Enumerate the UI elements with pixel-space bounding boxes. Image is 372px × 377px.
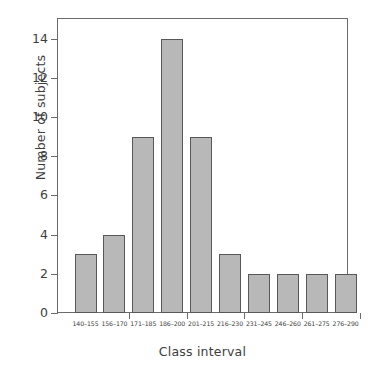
y-axis-tick-label: 8	[8, 148, 48, 163]
bar	[161, 39, 183, 313]
y-axis-tick	[51, 78, 58, 79]
y-axis-tick-label: 6	[8, 187, 48, 202]
bar	[306, 274, 328, 313]
histogram-figure: Number of subjects 02468101214 140–15515…	[0, 0, 372, 377]
y-axis-tick	[51, 39, 58, 40]
y-axis-tick-label: 2	[8, 266, 48, 281]
bar	[132, 137, 154, 313]
y-axis-tick-label: 10	[8, 109, 48, 124]
y-axis-tick	[51, 235, 58, 236]
bar	[248, 274, 270, 313]
bar	[103, 235, 125, 313]
y-axis-tick-label: 12	[8, 70, 48, 85]
x-axis-tick	[129, 313, 130, 319]
bar	[75, 254, 97, 313]
y-axis-tick-label: 0	[8, 305, 48, 320]
x-axis-tick	[360, 313, 361, 319]
y-axis-tick	[51, 274, 58, 275]
x-axis-tick-label: 276–290	[323, 320, 369, 327]
bar	[335, 274, 357, 313]
bar	[190, 137, 212, 313]
x-axis-tick	[302, 313, 303, 319]
bar	[219, 254, 241, 313]
y-axis-tick	[51, 195, 58, 196]
x-axis-title: Class interval	[57, 344, 348, 359]
bar	[277, 274, 299, 313]
y-axis-tick	[51, 313, 58, 314]
x-axis-tick	[244, 313, 245, 319]
plot-area	[58, 19, 347, 313]
y-axis-tick	[51, 156, 58, 157]
y-axis-tick-label: 4	[8, 227, 48, 242]
y-axis-tick	[51, 117, 58, 118]
x-axis-tick	[187, 313, 188, 319]
y-axis-tick-label: 14	[8, 31, 48, 46]
